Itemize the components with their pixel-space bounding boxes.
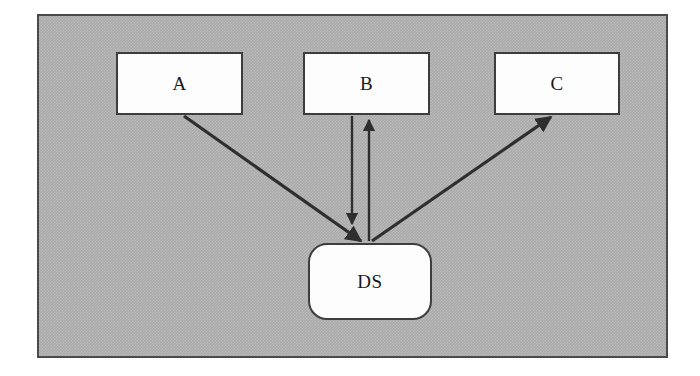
node-a-label: A	[172, 74, 186, 93]
edge-a-to-ds	[184, 116, 361, 241]
node-a[interactable]: A	[116, 52, 243, 115]
edge-ds-to-c	[372, 117, 551, 241]
diagram-canvas: A B C DS	[0, 0, 700, 376]
node-b-label: B	[360, 74, 373, 93]
node-c-label: C	[550, 74, 563, 93]
node-b[interactable]: B	[303, 52, 430, 115]
node-ds-label: DS	[357, 272, 382, 291]
node-ds[interactable]: DS	[308, 243, 432, 320]
node-c[interactable]: C	[494, 52, 620, 115]
